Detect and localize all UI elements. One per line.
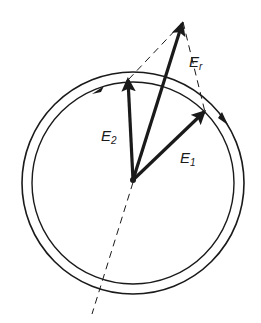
label-er: Er (189, 53, 203, 72)
vector-e2 (128, 80, 133, 180)
phasor-diagram: Er E2 E1 (0, 0, 261, 323)
label-e1: E1 (180, 149, 196, 168)
origin-point (130, 177, 136, 183)
label-e2: E2 (101, 127, 117, 146)
